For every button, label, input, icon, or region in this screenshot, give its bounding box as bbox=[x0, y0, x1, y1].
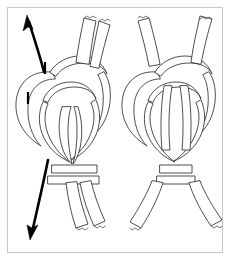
right-bottom-end-b bbox=[189, 181, 222, 226]
right-outer-right-bight bbox=[193, 72, 215, 140]
right-inner-left-loop bbox=[144, 102, 175, 162]
rope-end-cap-l3 bbox=[76, 228, 88, 230]
right-knot-group bbox=[122, 16, 222, 230]
left-inner-arch bbox=[43, 82, 96, 102]
right-top-end-a bbox=[138, 18, 160, 66]
right-center-strand-right bbox=[180, 86, 191, 150]
right-top-end-b bbox=[191, 16, 212, 64]
left-lower-band-upper bbox=[52, 165, 97, 173]
left-center-tongue-right bbox=[73, 107, 82, 164]
rope-end-cap-r4 bbox=[211, 226, 222, 228]
knot-diagram-figure: Knot tying diagram Two-panel line diagra… bbox=[0, 0, 230, 262]
right-lower-band-upper bbox=[160, 165, 192, 173]
right-top-arch bbox=[155, 56, 212, 76]
left-right-bight bbox=[88, 72, 110, 140]
rope-end-cap-l1 bbox=[84, 16, 96, 18]
rope-end-cap-l4 bbox=[94, 226, 105, 228]
left-inner-right-loop bbox=[69, 100, 100, 161]
right-inner-arch bbox=[148, 82, 201, 102]
rope-end-cap-r3 bbox=[130, 228, 141, 230]
rope-end-cap-r1 bbox=[138, 16, 149, 18]
tighten-down-arrow-shaft bbox=[33, 160, 48, 228]
right-outer-left-bight bbox=[122, 72, 160, 146]
left-knot-group bbox=[16, 15, 110, 240]
tighten-up-arrow-shaft bbox=[29, 22, 44, 72]
right-bottom-end-a bbox=[130, 181, 163, 228]
knot-diagram-canvas bbox=[0, 0, 230, 262]
right-center-strand-left bbox=[161, 86, 172, 150]
tighten-up-arrow-head bbox=[23, 15, 33, 31]
rope-end-cap-l2 bbox=[99, 19, 110, 21]
left-outer-bight bbox=[16, 72, 55, 146]
